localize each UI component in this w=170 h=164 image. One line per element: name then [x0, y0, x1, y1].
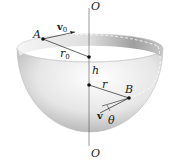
- point-a-label: A: [32, 28, 41, 41]
- point-b-label: B: [124, 83, 133, 96]
- theta-label: θ: [108, 114, 115, 127]
- h-label: h: [92, 64, 99, 77]
- v-label: v: [96, 110, 104, 121]
- axis-top-label: O: [91, 0, 100, 13]
- point-b-dot: [127, 96, 131, 100]
- v0-label: v0: [56, 21, 67, 34]
- rim-center-dot: [87, 55, 91, 59]
- r-label: r: [102, 78, 108, 91]
- point-a-dot: [41, 37, 45, 41]
- hemisphere-diagram: O O A B v0 r0 h r v θ: [0, 0, 170, 164]
- inner-center-dot: [87, 83, 91, 87]
- bowl-outer-surface: [17, 48, 163, 132]
- axis-bottom-label: O: [91, 147, 100, 160]
